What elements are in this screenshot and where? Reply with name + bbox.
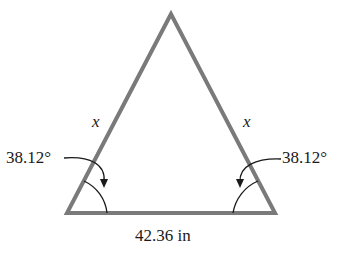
right-angle-arc — [233, 181, 258, 213]
right-angle-label: 38.12° — [282, 149, 327, 166]
left-angle-label: 38.12° — [6, 149, 51, 166]
triangle-diagram — [0, 0, 349, 253]
left-side-label: x — [92, 113, 100, 130]
right-angle-pointer — [240, 159, 281, 182]
right-arrowhead-icon — [236, 179, 244, 188]
left-arrowhead-icon — [100, 179, 108, 188]
base-label: 42.36 in — [135, 227, 191, 244]
right-side-label: x — [243, 113, 251, 130]
